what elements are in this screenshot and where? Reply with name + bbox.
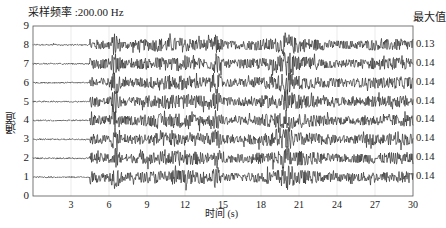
x-tick-label: 27 [365,199,385,210]
x-tick-label: 24 [327,199,347,210]
x-tick-label: 12 [175,199,195,210]
y-tick-label: 1 [15,170,29,182]
chart-title: 采样频率 :200.00 Hz [28,3,124,19]
x-tick-label: 3 [61,199,81,210]
y-tick-label: 6 [15,76,29,88]
y-tick-label: 2 [15,151,29,163]
max-value-header: 最大值 [413,8,446,24]
x-tick-label: 30 [403,199,423,210]
x-tick-label: 21 [289,199,309,210]
x-tick-label: 6 [99,199,119,210]
y-tick-label: 8 [15,38,29,50]
y-tick-label: 7 [15,57,29,69]
y-tick-label: 4 [15,113,29,125]
x-tick-label: 15 [213,199,233,210]
y-tick-label: 3 [15,132,29,144]
max-value: 0.14 [416,57,434,68]
max-value: 0.14 [416,132,434,143]
y-tick-label: 0 [15,189,29,201]
max-value: 0.13 [416,38,434,49]
x-tick-label: 18 [251,199,271,210]
y-tick-label: 9 [15,19,29,31]
max-value: 0.14 [416,113,434,124]
max-value: 0.14 [416,151,434,162]
y-tick-label: 5 [15,95,29,107]
max-value: 0.14 [416,170,434,181]
x-tick-label: 9 [137,199,157,210]
max-value: 0.14 [416,95,434,106]
max-value: 0.14 [416,76,434,87]
